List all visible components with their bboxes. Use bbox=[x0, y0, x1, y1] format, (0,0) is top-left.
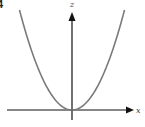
z-axis-arrow-icon bbox=[69, 12, 76, 21]
parabola-plot: x z bbox=[0, 0, 145, 127]
x-axis-label: x bbox=[136, 106, 141, 115]
z-axis-label: z bbox=[69, 0, 75, 9]
x-axis-arrow-icon bbox=[126, 107, 134, 114]
